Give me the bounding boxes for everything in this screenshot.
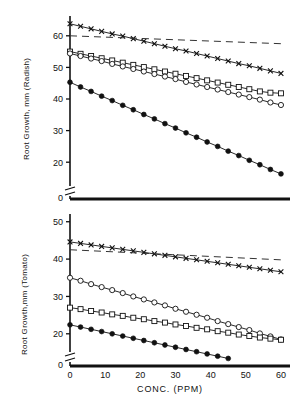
marker-open-circle — [215, 318, 220, 323]
marker-open-square — [120, 313, 125, 318]
marker-filled-circle — [152, 340, 157, 345]
marker-open-circle — [247, 327, 252, 332]
y-tick-label: 40 — [53, 254, 63, 264]
marker-open-square — [162, 69, 167, 74]
marker-open-circle — [268, 100, 273, 105]
marker-filled-circle — [78, 325, 83, 330]
marker-open-square — [205, 327, 210, 332]
marker-open-circle — [152, 71, 157, 76]
marker-open-circle — [99, 285, 104, 290]
marker-open-circle — [278, 102, 283, 107]
marker-open-square — [184, 73, 189, 78]
figure-labels: Root Growth, mm (Radish) Root Growth,mm … — [20, 58, 203, 394]
marker-open-circle — [194, 82, 199, 87]
figure-root: 20304050600 2030405000102030405060 Root … — [0, 0, 299, 400]
marker-open-square — [194, 76, 199, 81]
marker-filled-circle — [184, 130, 189, 135]
marker-open-circle — [110, 61, 115, 66]
marker-open-square — [141, 317, 146, 322]
y-tick-label: 60 — [53, 31, 63, 41]
marker-open-circle — [78, 278, 83, 283]
marker-filled-circle — [99, 329, 104, 334]
marker-open-circle — [88, 282, 93, 287]
y-tick-label: 40 — [53, 94, 63, 104]
y-tick-label: 20 — [53, 158, 63, 168]
marker-filled-circle — [279, 171, 284, 176]
marker-open-square — [257, 89, 262, 94]
marker-open-circle — [120, 290, 125, 295]
marker-open-square — [68, 305, 73, 310]
marker-open-circle — [183, 309, 188, 314]
x-axis-label: CONC. (PPM) — [137, 384, 203, 394]
marker-filled-circle — [173, 126, 178, 131]
marker-open-circle — [141, 297, 146, 302]
marker-open-square — [215, 80, 220, 85]
marker-open-square — [226, 330, 231, 335]
marker-filled-circle — [247, 158, 252, 163]
marker-open-square — [205, 78, 210, 83]
marker-filled-circle — [78, 85, 83, 90]
marker-open-square — [257, 335, 262, 340]
x-tick-label: 20 — [135, 370, 145, 380]
marker-open-square — [78, 307, 83, 312]
axis-break-mark — [65, 353, 75, 356]
marker-open-circle — [131, 294, 136, 299]
marker-open-square — [278, 91, 283, 96]
marker-filled-circle — [120, 103, 125, 108]
reference-dashed-line — [70, 250, 281, 260]
marker-open-square — [99, 310, 104, 315]
marker-open-square — [268, 90, 273, 95]
marker-filled-circle — [268, 167, 273, 172]
x-tick-label: 50 — [241, 370, 251, 380]
marker-open-circle — [205, 84, 210, 89]
marker-filled-circle — [120, 334, 125, 339]
marker-filled-circle — [257, 162, 262, 167]
marker-open-circle — [152, 300, 157, 305]
marker-open-square — [236, 84, 241, 89]
marker-open-circle — [173, 76, 178, 81]
marker-open-circle — [131, 66, 136, 71]
y-tick-label: 30 — [53, 126, 63, 136]
marker-open-square — [278, 337, 283, 342]
y-axis-zero-label: 0 — [58, 360, 63, 370]
marker-open-circle — [99, 58, 104, 63]
marker-open-circle — [67, 275, 72, 280]
marker-filled-circle — [163, 343, 168, 348]
marker-filled-circle — [194, 349, 199, 354]
marker-filled-circle — [68, 80, 73, 85]
marker-open-circle — [257, 97, 262, 102]
marker-open-circle — [236, 324, 241, 329]
y-tick-label: 50 — [53, 63, 63, 73]
marker-filled-circle — [205, 140, 210, 145]
marker-filled-circle — [141, 112, 146, 117]
marker-open-circle — [205, 315, 210, 320]
marker-open-circle — [247, 95, 252, 100]
marker-open-circle — [215, 87, 220, 92]
marker-filled-circle — [141, 338, 146, 343]
marker-filled-circle — [131, 336, 136, 341]
y-tick-label: 30 — [53, 292, 63, 302]
marker-open-square — [215, 329, 220, 334]
marker-open-square — [268, 336, 273, 341]
marker-open-square — [152, 319, 157, 324]
marker-filled-circle — [99, 94, 104, 99]
marker-open-square — [194, 325, 199, 330]
marker-open-square — [247, 87, 252, 92]
marker-filled-circle — [226, 356, 231, 361]
y-tick-label: 20 — [53, 329, 63, 339]
chart-panel-bottom: 2030405000102030405060 — [53, 214, 290, 380]
marker-open-square — [236, 332, 241, 337]
marker-open-circle — [120, 64, 125, 69]
marker-open-square — [173, 322, 178, 327]
y-axis-label-bottom: Root Growth,mm (Tomato) — [20, 254, 29, 355]
marker-open-circle — [162, 74, 167, 79]
axis-break-mark — [65, 358, 75, 361]
marker-open-circle — [173, 306, 178, 311]
marker-open-square — [110, 312, 115, 317]
marker-filled-circle — [194, 135, 199, 140]
marker-filled-circle — [205, 352, 210, 357]
marker-open-circle — [78, 53, 83, 58]
x-tick-label: 60 — [276, 370, 286, 380]
marker-filled-circle — [110, 98, 115, 103]
marker-filled-circle — [89, 327, 94, 332]
